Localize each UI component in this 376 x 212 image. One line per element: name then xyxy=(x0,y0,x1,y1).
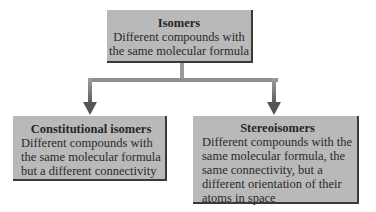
arrow-to-constitutional xyxy=(83,78,97,115)
horizontal-connector xyxy=(88,78,278,82)
constitutional-isomers-description: Different compounds with the same molecu… xyxy=(21,136,161,178)
stereoisomers-box: Stereoisomers Different compounds with t… xyxy=(193,116,359,204)
isomers-box: Isomers Different compounds with the sam… xyxy=(107,10,253,63)
isomers-title: Isomers xyxy=(107,16,251,30)
isomers-description: Different compounds with the same molecu… xyxy=(107,30,251,58)
arrow-to-stereoisomers xyxy=(267,78,281,115)
arrow-down-icon xyxy=(83,102,97,115)
constitutional-isomers-box: Constitutional isomers Different compoun… xyxy=(13,116,167,181)
stereoisomers-title: Stereoisomers xyxy=(202,121,353,135)
arrow-down-icon xyxy=(267,102,281,115)
constitutional-isomers-title: Constitutional isomers xyxy=(21,122,161,136)
stereoisomers-description: Different compounds with the same molecu… xyxy=(202,135,353,205)
